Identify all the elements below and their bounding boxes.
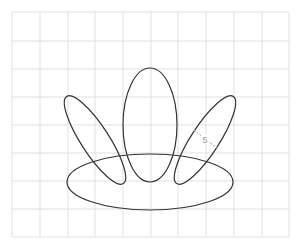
dimension-label: 5 (202, 135, 207, 145)
ellipse-diagram: 5 (0, 0, 299, 246)
grid (12, 12, 289, 237)
ellipses (55, 68, 245, 210)
dimension-annotation: 5 (194, 130, 217, 148)
diagram-canvas: 5 (0, 0, 299, 246)
